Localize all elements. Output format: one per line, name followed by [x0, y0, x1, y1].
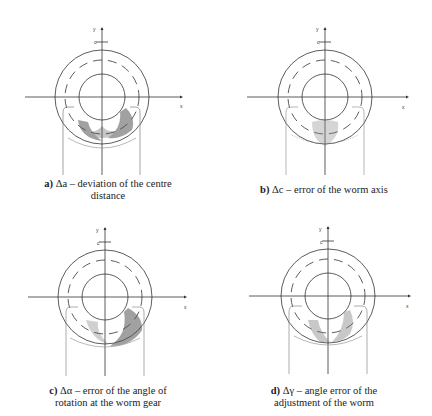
diagram-a: y c x	[0, 0, 216, 208]
svg-text:c: c	[97, 240, 100, 246]
diagram-b: y c x	[216, 0, 432, 208]
svg-text:x: x	[180, 103, 183, 109]
svg-text:x: x	[406, 303, 409, 309]
panel-a: y c x a) Δa – deviation of the centre di…	[0, 0, 216, 208]
svg-text:x: x	[184, 304, 187, 310]
svg-text:y: y	[96, 227, 99, 233]
svg-text:y: y	[319, 226, 322, 232]
caption-c: c) Δα – error of the angle of rotation a…	[0, 385, 216, 409]
svg-text:y: y	[93, 26, 96, 32]
panel-c: y c x c) Δα – error of the angle of rota…	[0, 208, 216, 416]
svg-text:y: y	[316, 26, 319, 32]
panel-b: y c x b) Δc – error of the worm axis	[216, 0, 432, 208]
caption-b: b) Δc – error of the worm axis	[216, 184, 432, 196]
caption-d: d) Δγ – angle error of the adjustment of…	[216, 385, 432, 409]
caption-a: a) Δa – deviation of the centre distance	[0, 178, 216, 202]
svg-text:c: c	[320, 239, 323, 245]
panel-d: y c x d) Δγ – angle error of the adjustm…	[216, 208, 432, 416]
svg-text:x: x	[402, 104, 405, 110]
